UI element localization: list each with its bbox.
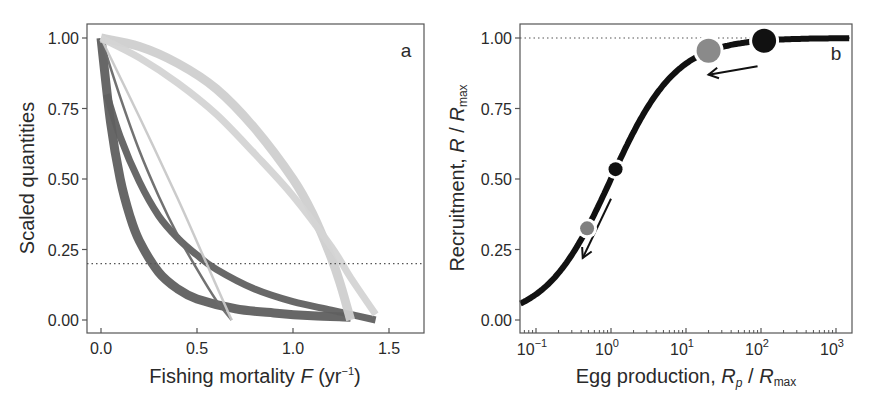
data-marker	[697, 39, 721, 63]
x-tick-label: 103	[820, 337, 844, 358]
recruitment-curve	[520, 38, 849, 303]
panel-b-curve	[520, 38, 849, 303]
figure-canvas: 0.00.51.01.5 0.000.250.500.751.00 a Fish…	[0, 0, 871, 404]
data-marker	[609, 162, 623, 176]
y-tick-label: 1.00	[481, 30, 512, 47]
x-tick-label: 10−1	[517, 337, 547, 358]
x-tick-label: 1.0	[282, 340, 304, 357]
figure: 0.00.51.01.5 0.000.250.500.751.00 a Fish…	[0, 0, 871, 414]
panel-b-label: b	[831, 43, 842, 64]
y-tick-label: 0.75	[48, 101, 79, 118]
panel-a-y-axis-label: Scaled quantities	[16, 102, 38, 254]
x-tick-label: 102	[745, 337, 769, 358]
panel-b-y-axis: 0.000.250.500.751.00	[481, 30, 520, 329]
x-tick-label: 101	[670, 337, 694, 358]
y-tick-label: 0.25	[48, 242, 79, 259]
data-marker	[752, 29, 776, 53]
data-marker	[580, 221, 594, 235]
y-tick-label: 0.00	[48, 312, 79, 329]
y-tick-label: 0.25	[481, 242, 512, 259]
panel-b-chart: 10−1100101102103 0.000.250.500.751.00 b …	[446, 24, 852, 390]
panel-b-x-axis-label: Egg production, Rp / Rmax	[576, 365, 797, 390]
y-tick-label: 1.00	[48, 30, 79, 47]
annotation-arrow-shaft	[709, 66, 758, 74]
panel-a-chart: 0.00.51.01.5 0.000.250.500.751.00 a Fish…	[16, 24, 424, 387]
panel-b-frame	[520, 24, 852, 333]
y-tick-label: 0.75	[481, 101, 512, 118]
panel-a-series-line	[107, 94, 376, 320]
panel-b-y-axis-label: Recruitment, R / Rmax	[446, 84, 470, 271]
panel-a-label: a	[401, 40, 412, 61]
panel-b-arrows	[582, 66, 757, 258]
x-tick-label: 1.5	[378, 340, 400, 357]
x-tick-label: 0.5	[186, 340, 208, 357]
y-tick-label: 0.50	[481, 171, 512, 188]
figure-caption-clipped	[0, 404, 871, 414]
x-tick-label: 100	[595, 337, 619, 358]
x-tick-label: 0.0	[90, 340, 112, 357]
panel-a-y-axis: 0.000.250.500.751.00	[48, 30, 87, 329]
y-tick-label: 0.50	[48, 171, 79, 188]
panel-a-x-axis: 0.00.51.01.5	[90, 328, 400, 357]
y-tick-label: 0.00	[481, 312, 512, 329]
panel-a-x-axis-label: Fishing mortality F (yr−1)	[149, 365, 360, 387]
panel-a-series	[101, 38, 376, 320]
